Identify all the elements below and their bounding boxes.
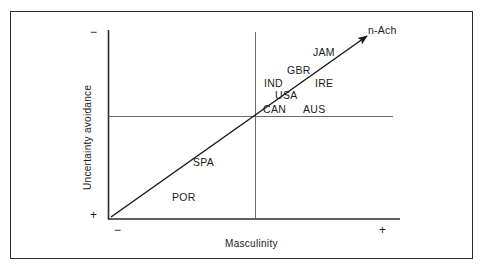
country-label-ind: IND xyxy=(264,78,283,89)
y-axis-tick-plus: + xyxy=(90,209,97,221)
x-axis-title: Masculinity xyxy=(225,239,278,249)
country-label-jam: JAM xyxy=(313,47,335,58)
x-axis-tick-plus: + xyxy=(379,224,386,236)
country-label-ire: IRE xyxy=(315,78,333,89)
x-axis-tick-minus: − xyxy=(114,224,121,236)
figure-container: n-Ach JAM GBR IND IRE USA CAN AUS SPA PO… xyxy=(0,0,485,273)
country-label-usa: USA xyxy=(275,90,298,101)
n-ach-arrow xyxy=(111,36,367,217)
plot-area: n-Ach JAM GBR IND IRE USA CAN AUS SPA PO… xyxy=(0,0,485,273)
country-label-aus: AUS xyxy=(303,104,326,115)
country-label-por: POR xyxy=(172,192,196,203)
chart-lines xyxy=(0,0,485,273)
country-label-spa: SPA xyxy=(193,157,214,168)
country-label-can: CAN xyxy=(263,104,286,115)
n-ach-label: n-Ach xyxy=(368,25,396,36)
country-label-gbr: GBR xyxy=(287,65,311,76)
y-axis-title: Uncertainty avoidance xyxy=(83,85,93,190)
y-axis-tick-minus: − xyxy=(90,26,97,38)
